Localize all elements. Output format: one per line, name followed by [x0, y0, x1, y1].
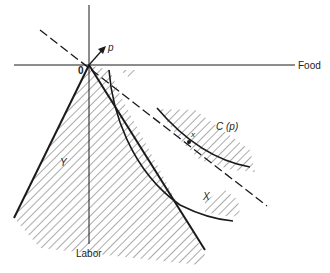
point-x: [187, 140, 191, 144]
labor-axis-label: Labor: [76, 249, 102, 259]
consumption-set-hatch: [205, 190, 240, 217]
production-set-hatch: [14, 65, 205, 265]
production-set-label: Y: [60, 158, 67, 168]
preferred-set-hatch: [158, 109, 255, 172]
diagram: p 0 Food Labor Y X C (p) x: [0, 0, 330, 273]
food-axis-label: Food: [298, 61, 321, 71]
price-vector-label: p: [108, 43, 114, 53]
diagram-canvas: [0, 0, 330, 273]
origin-label: 0: [78, 66, 84, 76]
preferred-set-label: C (p): [216, 122, 238, 132]
point-x-label: x: [191, 131, 195, 139]
consumption-set-label: X: [203, 192, 210, 202]
